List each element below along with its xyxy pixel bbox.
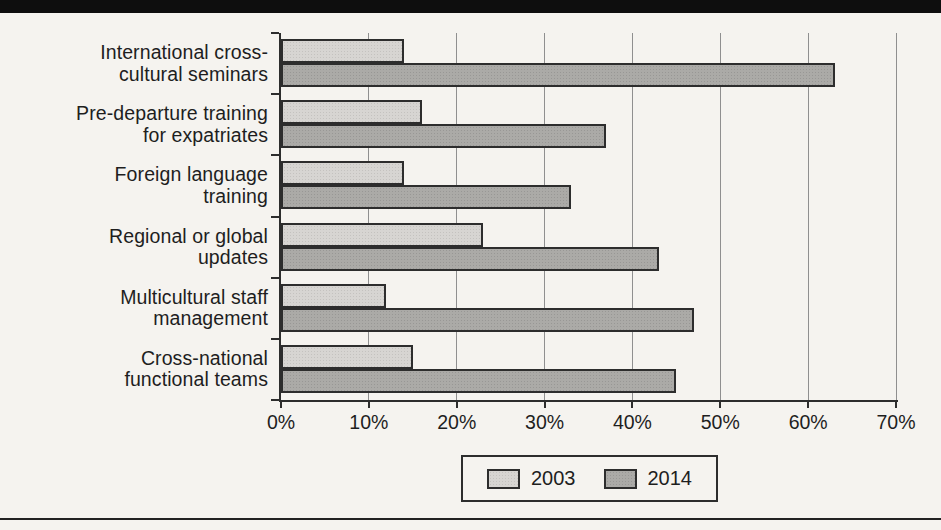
bar-row xyxy=(281,155,896,216)
category-label: Cross-nationalfunctional teams xyxy=(0,339,272,400)
x-tick-label: 20% xyxy=(425,411,489,434)
bar-2003 xyxy=(281,39,404,63)
x-tick xyxy=(719,400,721,408)
x-tick-label: 50% xyxy=(688,411,752,434)
legend-label-2003: 2003 xyxy=(531,467,576,490)
x-tick xyxy=(631,400,633,408)
bar-2003 xyxy=(281,161,404,185)
bar-2014 xyxy=(281,63,835,87)
bar-row xyxy=(281,278,896,339)
y-tick xyxy=(271,154,279,156)
y-tick xyxy=(271,399,279,401)
legend-swatch-2014 xyxy=(604,469,637,489)
category-label-line: updates xyxy=(198,247,268,269)
bar-2003 xyxy=(281,284,386,308)
y-axis-line xyxy=(279,33,281,400)
x-tick xyxy=(280,400,282,408)
top-black-bar xyxy=(0,0,941,13)
x-tick xyxy=(456,400,458,408)
y-tick xyxy=(271,277,279,279)
bar-row xyxy=(281,33,896,94)
plot-area xyxy=(281,33,896,400)
bar-2003 xyxy=(281,345,413,369)
legend-swatch-2003 xyxy=(487,469,520,489)
category-label: International cross-cultural seminars xyxy=(0,33,272,94)
category-label-line: Cross-national xyxy=(141,348,268,370)
category-label-line: cultural seminars xyxy=(119,64,268,86)
category-label-line: training xyxy=(203,186,268,208)
bar-row xyxy=(281,217,896,278)
x-tick xyxy=(544,400,546,408)
page: International cross-cultural seminarsPre… xyxy=(0,0,941,530)
bar-rows xyxy=(281,33,896,400)
x-tick xyxy=(807,400,809,408)
category-label-line: for expatriates xyxy=(143,125,268,147)
bar-2014 xyxy=(281,124,606,148)
x-tick-label: 40% xyxy=(600,411,664,434)
category-labels: International cross-cultural seminarsPre… xyxy=(0,33,272,400)
x-tick-label: 70% xyxy=(864,411,928,434)
x-tick-label: 0% xyxy=(249,411,313,434)
y-tick xyxy=(271,32,279,34)
x-tick-label: 60% xyxy=(776,411,840,434)
x-tick xyxy=(895,400,897,408)
x-tick xyxy=(368,400,370,408)
y-tick xyxy=(271,93,279,95)
legend-item-2014: 2014 xyxy=(604,467,693,490)
category-label: Multicultural staffmanagement xyxy=(0,278,272,339)
category-label: Pre-departure trainingfor expatriates xyxy=(0,94,272,155)
x-axis-line xyxy=(279,400,898,402)
bar-row xyxy=(281,339,896,400)
bar-2014 xyxy=(281,247,659,271)
category-label-line: Regional or global xyxy=(109,226,268,248)
category-label-line: Pre-departure training xyxy=(76,103,268,125)
category-label: Regional or globalupdates xyxy=(0,217,272,278)
category-label-line: management xyxy=(153,308,268,330)
legend: 2003 2014 xyxy=(461,455,718,502)
y-tick xyxy=(271,338,279,340)
bar-row xyxy=(281,94,896,155)
category-label-line: functional teams xyxy=(124,369,268,391)
bar-2003 xyxy=(281,223,483,247)
x-tick-label: 10% xyxy=(337,411,401,434)
category-label-line: Foreign language xyxy=(115,164,268,186)
bottom-rule xyxy=(0,518,941,520)
y-tick xyxy=(271,216,279,218)
bar-2014 xyxy=(281,369,676,393)
x-tick-label: 30% xyxy=(513,411,577,434)
legend-item-2003: 2003 xyxy=(487,467,576,490)
legend-label-2014: 2014 xyxy=(648,467,693,490)
bar-2014 xyxy=(281,185,571,209)
bar-2003 xyxy=(281,100,422,124)
category-label: Foreign languagetraining xyxy=(0,155,272,216)
category-label-line: Multicultural staff xyxy=(120,287,268,309)
bar-2014 xyxy=(281,308,694,332)
category-label-line: International cross- xyxy=(100,42,268,64)
